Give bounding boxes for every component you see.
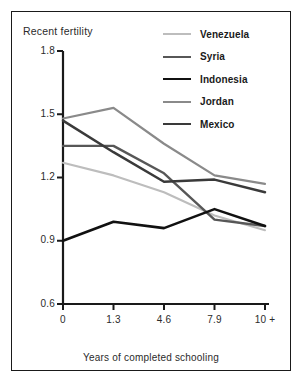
legend-item-label: Mexico [200,119,235,130]
y-axis-tick-label: 0.6 [29,298,55,309]
y-axis-tick-label: 1.8 [29,45,55,56]
legend-item-label: Venezuela [200,29,249,40]
x-axis-tick-label: 10 + [245,314,285,325]
legend-line-swatch [163,78,191,80]
x-axis-tick-label: 4.6 [144,314,184,325]
y-axis-tick-label: 1.2 [29,171,55,182]
legend: VenezuelaSyriaIndonesiaJordanMexico [163,23,283,136]
legend-item-venezuela[interactable]: Venezuela [163,23,283,46]
legend-item-label: Syria [200,51,225,62]
legend-item-mexico[interactable]: Mexico [163,113,283,136]
x-axis-tick-label: 0 [43,314,83,325]
legend-line-swatch [163,33,191,35]
legend-item-syria[interactable]: Syria [163,46,283,69]
y-axis-tick-label: 1.5 [29,108,55,119]
legend-item-label: Jordan [200,96,234,107]
chart-figure: Recent fertility 1.81.51.20.90.6 01.34.6… [0,0,302,383]
legend-line-swatch [163,123,191,125]
x-axis-tick-label: 7.9 [195,314,235,325]
series-line-indonesia [63,209,265,241]
legend-line-swatch [163,56,191,58]
y-axis-tick-label: 0.9 [29,234,55,245]
legend-line-swatch [163,101,191,103]
legend-item-label: Indonesia [200,74,248,85]
legend-item-jordan[interactable]: Jordan [163,91,283,114]
x-axis-tick-label: 1.3 [94,314,134,325]
legend-item-indonesia[interactable]: Indonesia [163,68,283,91]
x-axis-title: Years of completed schooling [0,352,302,363]
